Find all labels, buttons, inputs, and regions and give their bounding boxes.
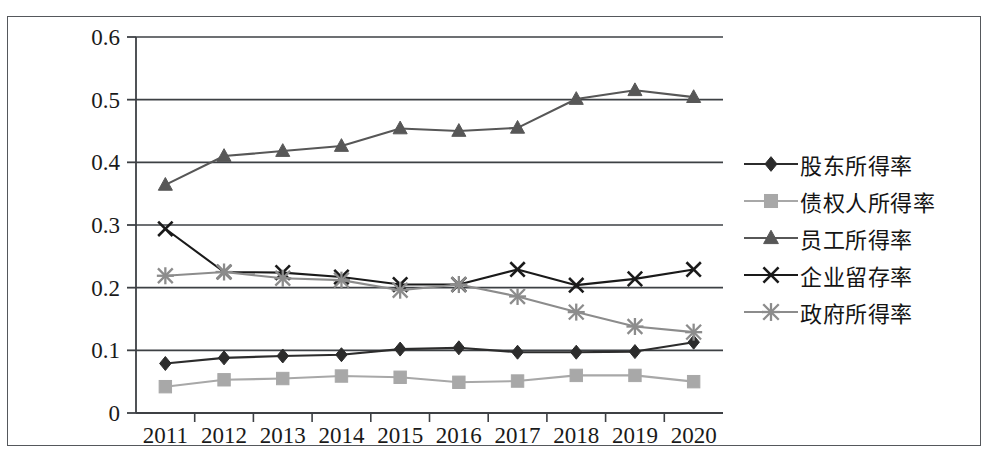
series-1 xyxy=(160,335,700,370)
legend-marker-icon xyxy=(742,189,800,213)
x-tick-label: 2013 xyxy=(260,423,306,448)
legend-item-3[interactable]: 员工所得率 xyxy=(742,222,982,254)
legend-key-square xyxy=(742,189,800,213)
x-tick-label: 2012 xyxy=(201,423,247,448)
asterisk-marker xyxy=(626,318,643,335)
y-tick-label: 0.2 xyxy=(91,276,120,301)
square-marker xyxy=(159,380,171,392)
square-marker xyxy=(570,369,582,381)
square-marker xyxy=(764,194,777,207)
diamond-marker xyxy=(453,341,464,355)
y-tick-label: 0.6 xyxy=(91,25,120,50)
diamond-marker xyxy=(160,356,171,370)
y-tick-label: 0.1 xyxy=(91,338,120,363)
y-tick-label: 0 xyxy=(109,401,121,426)
triangle-marker xyxy=(158,177,172,190)
legend-label: 债权人所得率 xyxy=(800,185,935,217)
series-line xyxy=(165,375,693,386)
diamond-marker xyxy=(629,345,640,359)
x-tick-label: 2020 xyxy=(671,423,717,448)
diamond-marker xyxy=(765,157,777,172)
asterisk-marker xyxy=(392,282,409,299)
series-line xyxy=(165,229,693,285)
legend-key-diamond xyxy=(742,152,800,176)
square-marker xyxy=(687,375,699,387)
legend-marker-icon xyxy=(742,226,800,250)
y-tick-label: 0.5 xyxy=(91,88,120,113)
legend-label: 股东所得率 xyxy=(800,148,913,180)
x-tick-label: 2018 xyxy=(553,423,599,448)
square-marker xyxy=(394,371,406,383)
diamond-marker xyxy=(218,351,229,365)
x-tick-label: 2017 xyxy=(495,423,541,448)
y-axis-ticks xyxy=(127,37,136,413)
square-marker xyxy=(511,375,523,387)
x-marker xyxy=(510,262,524,276)
data-series-layer xyxy=(157,83,702,393)
square-marker xyxy=(218,374,230,386)
x-marker xyxy=(158,222,172,236)
y-tick-label: 0.3 xyxy=(91,213,120,238)
asterisk-marker xyxy=(568,304,585,321)
x-axis-ticks xyxy=(195,413,665,422)
triangle-marker xyxy=(628,83,642,96)
triangle-marker xyxy=(393,121,407,134)
x-tick-label: 2016 xyxy=(436,423,482,448)
chart-screenshot: 00.10.20.30.40.50.6 20112012201320142015… xyxy=(0,0,991,453)
asterisk-marker xyxy=(509,288,526,305)
asterisk-marker xyxy=(762,303,780,321)
legend-label: 政府所得率 xyxy=(800,296,913,328)
series-4 xyxy=(158,222,701,293)
legend-item-4[interactable]: 企业留存率 xyxy=(742,259,982,291)
chart-legend: 股东所得率债权人所得率员工所得率企业留存率政府所得率 xyxy=(742,148,982,333)
legend-marker-icon xyxy=(742,152,800,176)
y-tick-label: 0.4 xyxy=(91,150,120,175)
asterisk-marker xyxy=(333,272,350,289)
series-line xyxy=(165,90,693,185)
square-marker xyxy=(629,369,641,381)
y-axis-tick-labels: 00.10.20.30.40.50.6 xyxy=(91,25,120,426)
legend-item-2[interactable]: 债权人所得率 xyxy=(742,185,982,217)
legend-label: 企业留存率 xyxy=(800,259,913,291)
square-marker xyxy=(277,372,289,384)
legend-key-triangle xyxy=(742,226,800,250)
legend-key-asterisk xyxy=(742,300,800,324)
asterisk-marker xyxy=(450,276,467,293)
legend-marker-icon xyxy=(742,300,800,324)
series-2 xyxy=(159,369,700,393)
asterisk-marker xyxy=(685,324,702,341)
diamond-marker xyxy=(394,342,405,356)
x-tick-label: 2019 xyxy=(612,423,658,448)
legend-key-x xyxy=(742,263,800,287)
legend-item-1[interactable]: 股东所得率 xyxy=(742,148,982,180)
x-axis-tick-labels: 2011201220132014201520162017201820192020 xyxy=(143,423,717,448)
x-tick-label: 2014 xyxy=(318,423,365,448)
series-5 xyxy=(157,263,702,340)
x-tick-label: 2015 xyxy=(377,423,423,448)
x-tick-label: 2011 xyxy=(143,423,188,448)
asterisk-marker xyxy=(216,263,233,280)
diamond-marker xyxy=(571,345,582,359)
legend-label: 员工所得率 xyxy=(800,222,913,254)
legend-marker-icon xyxy=(742,263,800,287)
legend-item-5[interactable]: 政府所得率 xyxy=(742,296,982,328)
square-marker xyxy=(335,370,347,382)
square-marker xyxy=(453,376,465,388)
asterisk-marker xyxy=(274,270,291,287)
asterisk-marker xyxy=(157,267,174,284)
diamond-marker xyxy=(512,345,523,359)
series-line xyxy=(165,342,693,363)
triangle-marker xyxy=(511,120,525,133)
